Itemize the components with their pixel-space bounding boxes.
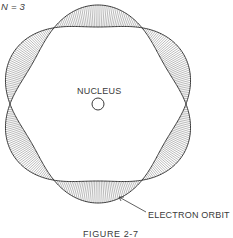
quantum-number-label: N = 3 [1, 1, 25, 12]
nucleus-label: NUCLEUS [77, 86, 121, 96]
nucleus-circle [92, 98, 104, 110]
figure-caption: FIGURE 2-7 [83, 229, 139, 238]
orbit-pointer-arrow [119, 197, 146, 212]
orbit-diagram [0, 0, 233, 238]
electron-orbit-label: ELECTRON ORBIT [148, 210, 230, 220]
